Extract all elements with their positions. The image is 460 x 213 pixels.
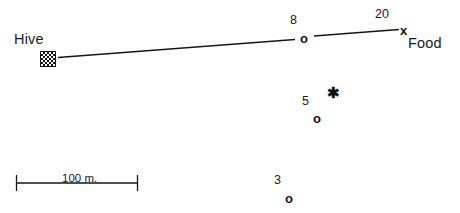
flight-path-segment-hive-to-8: [58, 40, 295, 58]
site-count-label-5: 5: [302, 95, 309, 108]
hive-marker: [40, 51, 56, 67]
food-marker: x: [400, 24, 407, 37]
site-count-label-8: 8: [290, 14, 297, 27]
food-label: Food: [408, 36, 442, 51]
hive-label: Hive: [14, 32, 44, 47]
flight-path-segment-8-to-food: [314, 30, 399, 37]
site-marker-star-icon: ✱: [327, 85, 340, 100]
site-marker-3: o: [285, 192, 293, 205]
scale-bar-label: 100 m.: [62, 172, 97, 184]
site-marker-5: o: [313, 112, 321, 125]
site-count-label-3: 3: [274, 174, 281, 187]
food-count-label: 20: [375, 8, 389, 21]
site-marker-8: o: [300, 32, 308, 45]
bee-foraging-map-figure: Hive 8 o 20 x Food ✱ 5 o 3 o 100 m.: [0, 0, 460, 213]
